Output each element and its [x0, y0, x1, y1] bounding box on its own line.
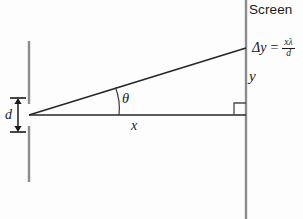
diagram-canvas [0, 0, 303, 219]
right-angle-marker [234, 103, 246, 115]
theta-arc [116, 88, 120, 116]
x-label: x [131, 119, 137, 133]
delta-y-equation: Δy = xλ d [252, 38, 295, 59]
theta-label: θ [122, 91, 129, 106]
screen-label: Screen [249, 3, 292, 17]
optics-diagram: Screen Δy = xλ d y x d θ [0, 0, 303, 219]
fraction: xλ d [282, 38, 294, 59]
slit-separation-arrowhead-bottom [14, 126, 21, 132]
slit-separation-arrowhead-top [14, 98, 21, 104]
delta-y-term: Δy [252, 41, 266, 55]
d-label: d [5, 108, 12, 122]
equals-sign: = [270, 41, 278, 55]
fraction-denominator: d [282, 48, 294, 59]
fraction-numerator: xλ [282, 38, 294, 48]
diffracted-ray [29, 48, 246, 115]
y-label: y [249, 69, 256, 84]
